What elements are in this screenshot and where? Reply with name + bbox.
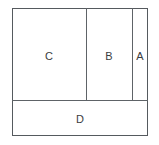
region-c[interactable]: C (12, 8, 86, 100)
region-d[interactable]: D (12, 100, 148, 136)
divider-top-bottom (12, 100, 148, 101)
divider-c-b (86, 8, 87, 100)
region-b[interactable]: B (86, 8, 132, 100)
region-b-label: B (105, 51, 113, 62)
region-d-label: D (76, 114, 84, 125)
diagram-canvas: C B A D (0, 0, 159, 145)
region-a-label: A (136, 51, 144, 62)
divider-b-a (132, 8, 133, 100)
region-c-label: C (45, 51, 53, 62)
region-a[interactable]: A (132, 8, 148, 100)
